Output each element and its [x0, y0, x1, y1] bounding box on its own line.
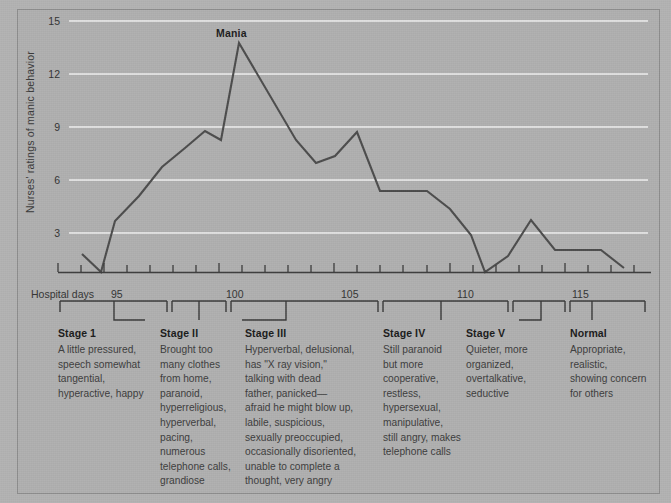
- normal-stage-title: Normal: [570, 327, 607, 339]
- manic-rating-line: [82, 43, 624, 272]
- stage-2-title: Stage II: [160, 327, 198, 339]
- y-tick-6: 6: [34, 174, 60, 186]
- x-tick-110: 110: [457, 288, 474, 300]
- stage-1-title: Stage 1: [58, 327, 96, 339]
- stage-4-title: Stage IV: [383, 327, 425, 339]
- y-tick-9: 9: [34, 121, 60, 133]
- x-tick-115: 115: [572, 288, 589, 300]
- hospital-days-label: Hospital days: [31, 288, 94, 300]
- stage-brackets: [60, 301, 645, 320]
- stage-5-body: Quieter, more organized, overtalkative, …: [466, 343, 546, 401]
- stage-2-body: Brought too many clothes from home, para…: [160, 343, 232, 489]
- gridlines: [69, 21, 648, 233]
- normal-stage-body: Appropriate, realistic, showing concern …: [570, 343, 658, 401]
- x-tick-100: 100: [226, 288, 244, 300]
- x-tick-95: 95: [111, 288, 123, 300]
- figure-page: Nurses' ratings of manic behavior 15 12 …: [0, 0, 671, 503]
- y-tick-15: 15: [34, 15, 60, 27]
- y-tick-12: 12: [34, 68, 60, 80]
- stage-3-title: Stage III: [245, 327, 286, 339]
- stage-5-title: Stage V: [466, 327, 505, 339]
- y-tick-3: 3: [34, 227, 60, 239]
- x-axis-ticks: [58, 263, 634, 272]
- x-tick-105: 105: [341, 288, 359, 300]
- stage-3-body: Hyperverbal, delusional, has "X ray visi…: [245, 343, 373, 489]
- mania-annotation: Mania: [216, 27, 247, 39]
- stage-1-body: A little pressured, speech somewhat tang…: [58, 343, 162, 401]
